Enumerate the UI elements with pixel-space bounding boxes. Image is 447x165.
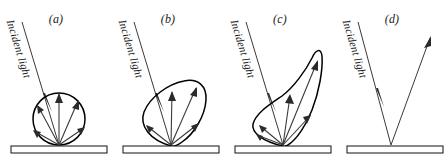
surface-bar bbox=[347, 146, 443, 153]
reflected-ray-arrowhead bbox=[424, 36, 431, 48]
surface-bar bbox=[235, 146, 331, 153]
panel-c: Incident light (c) bbox=[224, 0, 336, 165]
incident-ray bbox=[358, 22, 391, 145]
panel-a-label: (a) bbox=[0, 12, 112, 27]
incident-ray bbox=[134, 22, 171, 145]
panel-a: Incident light (a) bbox=[0, 0, 112, 165]
panel-b-label: (b) bbox=[112, 12, 224, 27]
incident-ray bbox=[22, 22, 59, 145]
panel-b: Incident light (b) bbox=[112, 0, 224, 165]
glossy-lobe bbox=[253, 51, 322, 147]
surface-bar bbox=[123, 146, 219, 153]
panel-c-label: (c) bbox=[224, 12, 336, 27]
scattering-figure: Incident light (a) Incident light (b) bbox=[0, 0, 447, 165]
panel-d: Incident light (d) bbox=[336, 0, 447, 165]
reflected-ray bbox=[391, 38, 430, 145]
reflected-rays bbox=[256, 60, 318, 145]
reflected-rays bbox=[146, 87, 199, 145]
incident-ray bbox=[246, 22, 283, 145]
panel-d-label: (d) bbox=[336, 12, 447, 27]
surface-bar bbox=[11, 146, 107, 153]
